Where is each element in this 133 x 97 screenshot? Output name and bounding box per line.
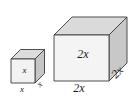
small-cube: x x x: [11, 50, 45, 95]
small-cube-bottom-front-label: x: [19, 84, 24, 94]
small-cube-front-vertical-label: x: [22, 65, 27, 75]
large-cube-bottom-front-label: 2x: [73, 81, 85, 95]
cube-comparison-figure: x x x 2x 2x 2x: [0, 0, 133, 97]
figure-canvas: x x x 2x 2x 2x: [0, 0, 133, 97]
small-cube-right-depth-label: x: [34, 79, 45, 90]
large-cube-front-vertical-label: 2x: [77, 47, 89, 61]
large-cube: 2x 2x 2x: [54, 17, 127, 95]
